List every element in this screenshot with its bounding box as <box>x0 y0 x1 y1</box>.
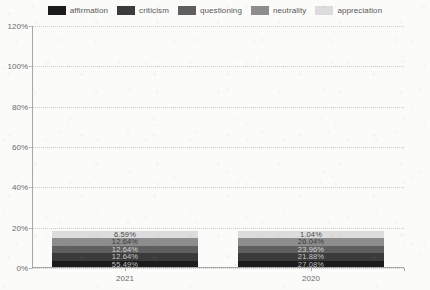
legend-swatch-icon <box>251 6 269 15</box>
y-axis-tick-label: 40% <box>12 183 28 192</box>
legend-item-appreciation[interactable]: appreciation <box>315 6 382 15</box>
bar-segment-value-label: 21.88% <box>298 253 324 261</box>
bar-segment-value-label: 23.96% <box>298 246 324 254</box>
bar-segment-criticism[interactable]: 12.64% <box>52 253 197 261</box>
bar-segment-criticism[interactable]: 21.88% <box>238 253 383 261</box>
y-axis-tick-label: 100% <box>8 62 28 71</box>
gridline <box>32 268 404 269</box>
y-axis-tick-label: 120% <box>8 22 28 31</box>
bar-segment-value-label: 6.59% <box>114 231 136 239</box>
legend-item-questioning[interactable]: questioning <box>178 6 242 15</box>
gridline <box>32 66 404 67</box>
bar-segment-appreciation[interactable]: 6.59% <box>52 231 197 239</box>
bar-segment-value-label: 12.64% <box>112 253 138 261</box>
plot-area: 0%20%40%60%80%100%120% 55.49%12.64%12.64… <box>32 26 404 268</box>
legend-item-criticism[interactable]: criticism <box>117 6 169 15</box>
stacked-bar-chart: affirmationcriticismquestioningneutralit… <box>0 0 430 290</box>
legend-swatch-icon <box>48 6 66 15</box>
x-axis-tick-label: 2021 <box>116 274 134 283</box>
legend-item-label: appreciation <box>337 6 382 15</box>
x-axis-end-tick-mark <box>404 268 405 271</box>
stacked-bar-2021[interactable]: 55.49%12.64%12.64%12.64%6.59% <box>52 231 197 269</box>
bar-segment-questioning[interactable]: 23.96% <box>238 246 383 254</box>
x-axis-line <box>32 267 404 268</box>
gridline <box>32 107 404 108</box>
bar-segment-neutrality[interactable]: 12.64% <box>52 238 197 246</box>
bar-segment-questioning[interactable]: 12.64% <box>52 246 197 254</box>
chart-legend: affirmationcriticismquestioningneutralit… <box>0 6 430 15</box>
bar-segment-neutrality[interactable]: 26.04% <box>238 238 383 246</box>
gridline <box>32 228 404 229</box>
y-axis-line <box>32 26 33 268</box>
legend-item-neutrality[interactable]: neutrality <box>251 6 306 15</box>
legend-swatch-icon <box>117 6 135 15</box>
stacked-bar-2020[interactable]: 27.08%21.88%23.96%26.04%1.04% <box>238 231 383 269</box>
legend-item-label: criticism <box>139 6 169 15</box>
y-axis-tick-mark <box>29 268 32 269</box>
legend-item-label: affirmation <box>70 6 108 15</box>
legend-item-label: questioning <box>200 6 242 15</box>
gridline <box>32 187 404 188</box>
bar-segment-value-label: 26.04% <box>298 238 324 246</box>
x-axis-tick-mark <box>311 268 312 271</box>
y-axis-tick-label: 60% <box>12 143 28 152</box>
legend-item-label: neutrality <box>273 6 306 15</box>
bar-segment-value-label: 1.04% <box>300 231 322 239</box>
legend-swatch-icon <box>178 6 196 15</box>
gridline <box>32 147 404 148</box>
bar-segment-appreciation[interactable]: 1.04% <box>238 231 383 239</box>
x-axis-tick-label: 2020 <box>302 274 320 283</box>
y-axis-tick-label: 80% <box>12 102 28 111</box>
y-axis-tick-label: 20% <box>12 223 28 232</box>
bar-segment-value-label: 12.64% <box>112 238 138 246</box>
y-axis-tick-label: 0% <box>16 264 28 273</box>
legend-swatch-icon <box>315 6 333 15</box>
legend-item-affirmation[interactable]: affirmation <box>48 6 108 15</box>
gridline <box>32 26 404 27</box>
bar-segment-value-label: 12.64% <box>112 246 138 254</box>
x-axis-tick-mark <box>125 268 126 271</box>
